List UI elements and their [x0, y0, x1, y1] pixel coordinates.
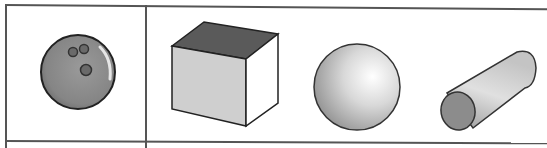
table-left-border [5, 4, 7, 148]
sphere-icon [312, 42, 402, 132]
table-bottom-border [5, 140, 547, 144]
cube-icon [168, 20, 280, 130]
cylinder-icon [435, 48, 540, 133]
table-top-border [5, 4, 547, 10]
bowling-ball-icon [38, 33, 118, 111]
table-column-divider [145, 5, 147, 148]
